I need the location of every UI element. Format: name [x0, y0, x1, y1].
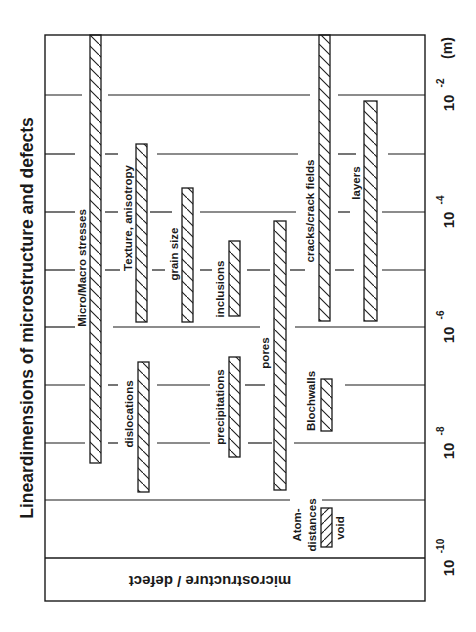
axis-unit: (m): [439, 37, 455, 59]
label-texture-anisotropy: Texture, anisotropy: [122, 164, 134, 270]
svg-text:-2: -2: [435, 78, 446, 87]
tick-1e-10: 10 -10: [435, 538, 457, 576]
bar-precipitations: [229, 357, 240, 457]
bar-layers: [364, 101, 377, 321]
label-micro-macro-stresses: Micro/Macro stresses: [76, 209, 88, 327]
label-precipitations: precipitations: [214, 369, 226, 444]
tick-1e-4: 10 -4: [435, 195, 457, 228]
svg-text:10: 10: [440, 212, 457, 229]
label-grain-size: grain size: [168, 227, 180, 280]
svg-text:10: 10: [440, 327, 457, 344]
label-atom-line1: Atom-: [291, 508, 303, 541]
bar-pores: [274, 221, 286, 490]
bar-void: [321, 508, 332, 547]
label-inclusions: inclusions: [214, 261, 226, 318]
svg-text:-8: -8: [435, 426, 446, 435]
bar-micro-macro-stresses: [90, 35, 101, 463]
svg-text:10: 10: [440, 95, 457, 112]
svg-text:-6: -6: [435, 310, 446, 319]
bar-texture-anisotropy: [136, 144, 147, 322]
label-cracks: cracks/crack fields: [304, 160, 316, 263]
bar-grain-size: [182, 188, 193, 322]
chart: Lineardimensions of microstructure and d…: [0, 0, 476, 632]
chart-title: Lineardimensions of microstructure and d…: [17, 117, 37, 519]
svg-text:10: 10: [440, 443, 457, 460]
tick-1e-6: 10 -6: [435, 310, 457, 343]
tick-1e-2: 10 -2: [435, 78, 457, 111]
range-bars: [90, 35, 377, 547]
label-atom-line2: distances: [306, 498, 318, 551]
bar-dislocations: [138, 362, 149, 492]
tick-1e-8: 10 -8: [435, 426, 457, 459]
svg-text:10: 10: [440, 560, 457, 577]
label-layers: layers: [350, 166, 362, 199]
bar-cracks: [319, 35, 330, 321]
bar-inclusions: [229, 241, 240, 316]
bar-blochwalls: [321, 379, 332, 431]
svg-text:-10: -10: [435, 538, 446, 553]
label-void: void: [334, 516, 346, 540]
label-dislocations: dislocations: [123, 380, 135, 447]
label-pores: pores: [259, 337, 271, 368]
svg-text:-4: -4: [435, 195, 446, 204]
label-blochwalls: Blochwalls: [305, 371, 317, 431]
category-header: microstructure / defect: [129, 573, 292, 590]
